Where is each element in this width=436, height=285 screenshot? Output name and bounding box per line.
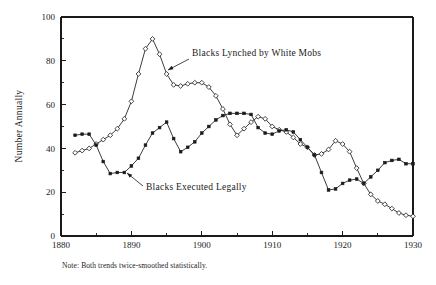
y-tick-label: 20 <box>46 187 56 197</box>
series-executed <box>74 112 415 191</box>
data-point <box>207 125 210 128</box>
data-point <box>250 113 253 116</box>
data-point <box>192 80 197 85</box>
data-point <box>123 171 126 174</box>
x-tick-label: 1930 <box>404 240 423 250</box>
data-point <box>355 178 358 181</box>
data-point <box>257 126 260 129</box>
data-point <box>165 121 168 124</box>
data-point <box>369 176 372 179</box>
data-point <box>221 107 226 112</box>
annotations-group: Blacks Lynched by White MobsBlacks Execu… <box>127 48 321 192</box>
data-point <box>292 131 295 134</box>
data-point <box>81 133 84 136</box>
data-point <box>348 179 351 182</box>
data-point <box>320 171 323 174</box>
data-point <box>264 132 267 135</box>
data-point <box>327 189 330 192</box>
data-point <box>222 114 225 117</box>
x-axis-tick-labels: 188018901900191019201930 <box>52 240 423 250</box>
x-tick-label: 1920 <box>334 240 353 250</box>
data-point <box>215 119 218 122</box>
data-point <box>116 171 119 174</box>
data-point <box>334 188 337 191</box>
data-point <box>412 162 415 165</box>
y-tick-label: 100 <box>42 12 56 22</box>
y-axis-title: Number Annually <box>14 90 24 163</box>
data-point <box>129 99 134 104</box>
data-point <box>73 150 78 155</box>
data-point <box>389 206 394 211</box>
data-point <box>285 128 288 131</box>
data-point <box>236 112 239 115</box>
data-point <box>178 84 183 89</box>
chart-container: 020406080100 188018901900191019201930 Nu… <box>0 0 436 285</box>
data-point <box>243 112 246 115</box>
data-point <box>382 202 387 207</box>
data-point <box>101 137 106 142</box>
data-point <box>299 138 302 141</box>
lynching-executions-line-chart: 020406080100 188018901900191019201930 Nu… <box>0 0 436 285</box>
data-point <box>179 150 182 153</box>
data-point <box>404 213 409 218</box>
lynched-annotation: Blacks Lynched by White Mobs <box>168 48 321 70</box>
x-axis-ticks <box>61 231 413 236</box>
data-point <box>136 72 141 77</box>
x-tick-label: 1890 <box>122 240 141 250</box>
data-point <box>405 162 408 165</box>
data-point <box>186 146 189 149</box>
series-label: Blacks Executed Legally <box>146 182 247 192</box>
data-point <box>398 158 401 161</box>
data-point <box>200 132 203 135</box>
data-point <box>362 182 365 185</box>
data-point <box>193 140 196 143</box>
data-point <box>109 172 112 175</box>
chart-note: Note: Both trends twice-smoothed statist… <box>62 261 207 270</box>
data-point <box>185 81 190 86</box>
series-label: Blacks Lynched by White Mobs <box>192 48 321 58</box>
data-point <box>278 130 281 133</box>
data-point <box>87 146 92 151</box>
arrow-head-icon <box>168 66 174 70</box>
y-tick-label: 80 <box>46 56 56 66</box>
data-point <box>80 148 85 153</box>
y-axis-ticks <box>61 17 66 236</box>
data-point <box>397 211 402 216</box>
data-point <box>199 80 204 85</box>
data-point <box>228 122 233 127</box>
data-point <box>164 72 169 77</box>
data-point <box>95 144 98 147</box>
y-tick-label: 60 <box>46 100 56 110</box>
data-point <box>313 154 316 157</box>
data-point <box>319 151 324 156</box>
data-point <box>376 169 379 172</box>
executed-annotation: Blacks Executed Legally <box>127 173 247 192</box>
y-tick-label: 40 <box>46 144 56 154</box>
data-point <box>383 161 386 164</box>
data-point <box>341 182 344 185</box>
data-point <box>137 157 140 160</box>
data-point <box>102 160 105 163</box>
x-tick-label: 1880 <box>52 240 71 250</box>
x-tick-label: 1910 <box>263 240 282 250</box>
data-point <box>271 133 274 136</box>
data-point <box>144 144 147 147</box>
data-point <box>172 137 175 140</box>
data-point <box>74 134 77 137</box>
data-point <box>306 146 309 149</box>
data-point <box>88 133 91 136</box>
data-point <box>354 166 359 171</box>
y-axis-tick-labels: 020406080100 <box>42 12 56 241</box>
x-tick-label: 1900 <box>193 240 212 250</box>
data-point <box>411 214 416 219</box>
data-point <box>158 126 161 129</box>
data-point <box>171 82 176 87</box>
data-point <box>229 112 232 115</box>
data-point <box>391 159 394 162</box>
data-point <box>130 165 133 168</box>
data-point <box>151 132 154 135</box>
data-point <box>157 52 162 57</box>
